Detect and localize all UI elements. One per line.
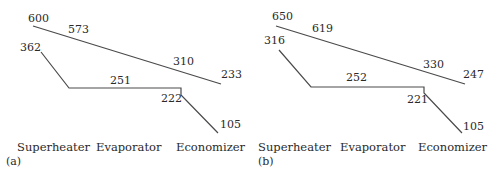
gas-economizer-inlet-temp: 310	[173, 56, 194, 68]
section-economizer: Economizer	[418, 141, 487, 153]
evaporation-temp: 251	[110, 75, 131, 87]
feedwater-temp: 105	[463, 121, 484, 133]
gas-exit-temp: 247	[463, 69, 484, 81]
gas-inlet-temp: 600	[28, 13, 49, 25]
gas-economizer-inlet-temp: 330	[423, 59, 444, 71]
section-evaporator: Evaporator	[340, 141, 405, 153]
gas-inlet-temp: 650	[272, 11, 293, 23]
panel-label: (b)	[258, 156, 274, 168]
economizer-out-temp: 221	[407, 94, 428, 106]
gas-superheater-exit-temp: 619	[312, 23, 333, 35]
economizer-out-temp: 222	[161, 93, 182, 105]
steam-superheat-temp: 362	[20, 42, 41, 54]
section-evaporator: Evaporator	[96, 141, 161, 153]
gas-exit-temp: 233	[221, 69, 242, 81]
section-superheater: Superheater	[17, 141, 90, 153]
section-superheater: Superheater	[258, 141, 331, 153]
section-economizer: Economizer	[176, 141, 245, 153]
gas-line-b	[276, 26, 465, 84]
evaporation-temp: 252	[346, 72, 367, 84]
gas-superheater-exit-temp: 573	[68, 24, 89, 36]
panel-label: (a)	[6, 156, 21, 168]
feedwater-temp: 105	[220, 119, 241, 131]
steam-superheat-temp: 316	[264, 35, 285, 47]
